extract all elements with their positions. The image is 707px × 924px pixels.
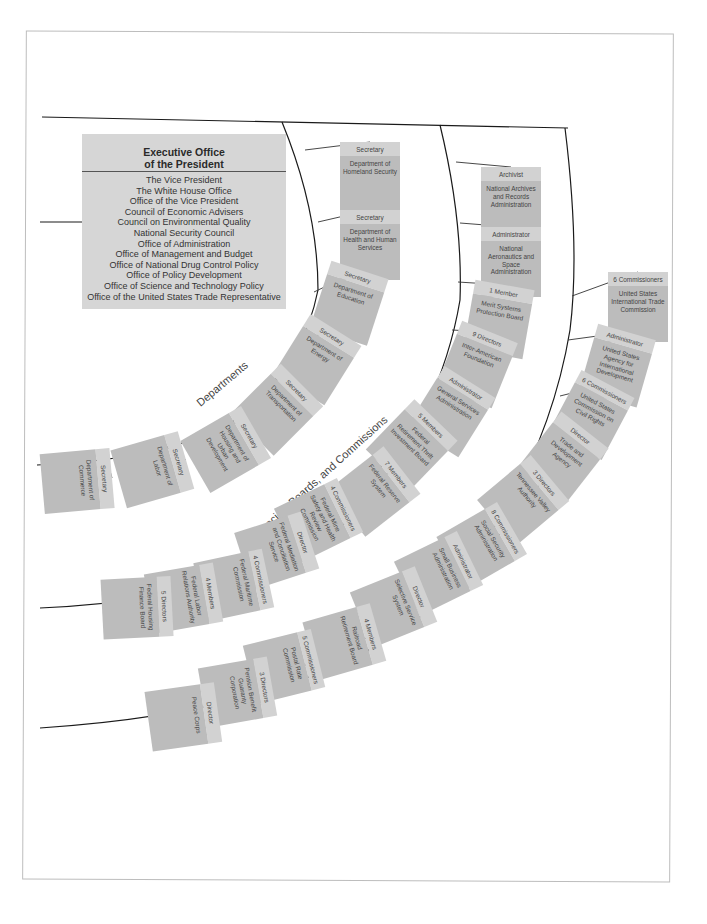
org-box-name: Department of Homeland Security bbox=[340, 156, 400, 212]
eop-item: Office of Administration bbox=[82, 239, 286, 250]
eop-item: Council on Environmental Quality bbox=[82, 217, 286, 228]
eop-item: Office of National Drug Control Policy bbox=[82, 260, 286, 271]
eop-item: Office of Policy Development bbox=[82, 270, 286, 281]
eop-item: Office of the Vice President bbox=[82, 196, 286, 207]
eop-item: Office of Science and Technology Policy bbox=[82, 281, 286, 292]
executive-office-title-line2: of the President bbox=[82, 158, 286, 170]
executive-office-box: Executive Office of the President The Vi… bbox=[82, 134, 286, 309]
org-box-department-of-homeland-security: SecretaryDepartment of Homeland Security bbox=[340, 142, 400, 212]
org-box-name: Federal Housing Finance Board bbox=[101, 577, 160, 640]
executive-office-title: Executive Office of the President bbox=[82, 134, 286, 172]
eop-item: The Vice President bbox=[82, 175, 286, 186]
executive-office-title-line1: Executive Office bbox=[82, 146, 286, 158]
eop-item: National Security Council bbox=[82, 228, 286, 239]
org-box-peace-corps: DirectorPeace Corps bbox=[145, 682, 223, 751]
executive-office-list: The Vice President The White House Offic… bbox=[82, 172, 286, 302]
org-box-head: Archivist bbox=[481, 167, 541, 181]
eop-item: The White House Office bbox=[82, 186, 286, 197]
eop-item: Office of Management and Budget bbox=[82, 249, 286, 260]
top-connector-line bbox=[42, 117, 568, 128]
org-box-federal-housing-finance-board: 5 DirectorsFederal Housing Finance Board bbox=[101, 576, 174, 640]
eop-item: Council of Economic Advisers bbox=[82, 207, 286, 218]
org-box-name: Department of Commerce bbox=[40, 449, 101, 514]
eop-item: Office of the United States Trade Repres… bbox=[82, 292, 286, 303]
org-box-head: 6 Commissioners bbox=[608, 272, 668, 286]
org-box-head: Administrator bbox=[481, 227, 541, 241]
org-box-head: Secretary bbox=[340, 210, 400, 224]
org-box-name: Peace Corps bbox=[145, 684, 208, 751]
org-box-department-of-commerce: SecretaryDepartment of Commerce bbox=[40, 448, 115, 514]
org-box-head: Secretary bbox=[340, 142, 400, 156]
